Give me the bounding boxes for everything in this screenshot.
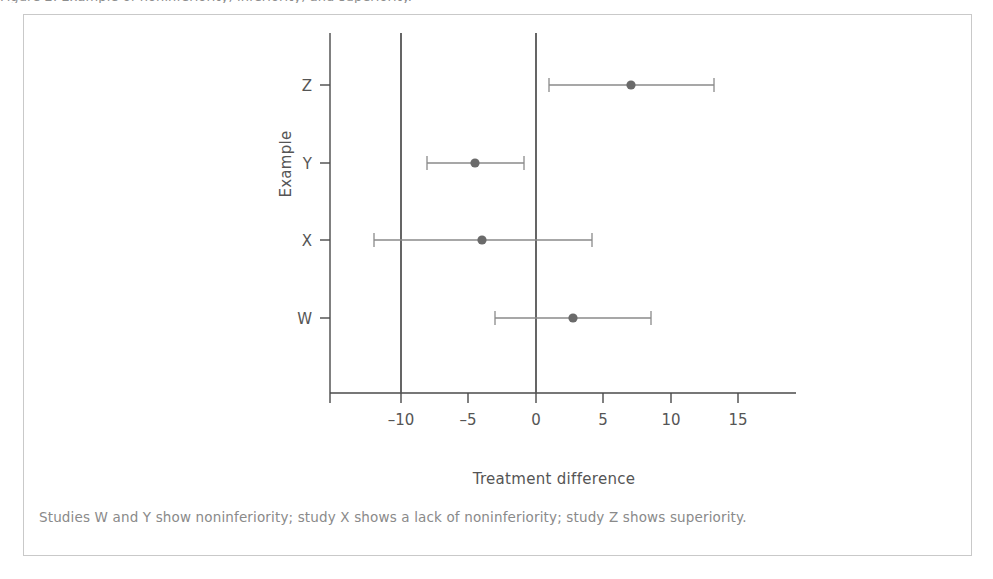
interval-row-w [495,311,651,325]
x-tick-label-15: 15 [728,411,747,429]
y-axis-tick-labels: Z Y X W [297,77,313,328]
figure-frame: Example Treatment difference –10 –5 [23,14,972,556]
x-tick-label-10: 10 [661,411,680,429]
estimate-point-z [626,80,635,89]
cropped-figure-title: Figure 2. Example of noninferiority, inf… [0,0,993,3]
x-tick-label--10: –10 [388,411,415,429]
x-tick-label-0: 0 [531,411,541,429]
x-axis-tick-labels: –10 –5 0 5 10 15 [388,411,748,429]
y-tick-label-z: Z [302,77,312,95]
y-tick-label-y: Y [302,155,313,173]
interval-row-z [549,78,714,92]
interval-row-x [374,233,592,247]
y-tick-label-w: W [297,310,312,328]
y-axis-ticks [320,85,330,318]
plot-area: Example Treatment difference –10 –5 [24,15,973,493]
estimate-point-y [470,158,479,167]
x-tick-label-5: 5 [598,411,608,429]
figure-caption: Studies W and Y show noninferiority; stu… [39,509,959,525]
y-tick-label-x: X [302,232,312,250]
x-axis-ticks [330,393,738,403]
interval-row-y [427,156,524,170]
forest-plot-svg: –10 –5 0 5 10 15 Z Y X W [24,15,973,493]
x-tick-label--5: –5 [459,411,476,429]
estimate-point-w [568,313,577,322]
estimate-point-x [477,235,486,244]
